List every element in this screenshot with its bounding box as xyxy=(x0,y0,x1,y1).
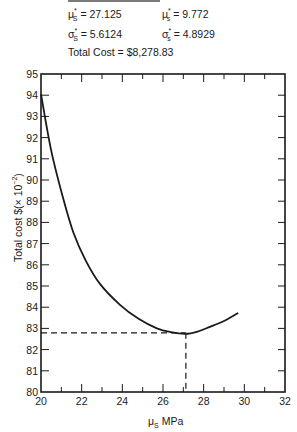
cost-curve xyxy=(41,94,238,334)
y-tick-label: 85 xyxy=(26,280,38,292)
y-tick-label: 92 xyxy=(26,132,38,144)
y-tick-label: 84 xyxy=(26,301,38,313)
y-tick-label: 90 xyxy=(26,174,38,186)
y-axis-label: Total cost $(× 10−2) xyxy=(11,173,24,262)
x-tick-label: 30 xyxy=(238,395,250,407)
y-tick-label: 95 xyxy=(26,68,38,80)
y-tick-label: 80 xyxy=(26,386,38,398)
y-tick-label: 81 xyxy=(26,365,38,377)
y-tick-label: 82 xyxy=(26,344,38,356)
x-tick-label: 24 xyxy=(116,395,128,407)
y-tick-label: 88 xyxy=(26,216,38,228)
y-tick-label: 91 xyxy=(26,153,38,165)
plot-frame xyxy=(41,74,285,392)
x-tick-label: 32 xyxy=(279,395,291,407)
y-tick-label: 94 xyxy=(26,89,38,101)
x-tick-label: 26 xyxy=(157,395,169,407)
x-tick-label: 22 xyxy=(76,395,88,407)
x-tick-label: 28 xyxy=(198,395,210,407)
y-tick-label: 83 xyxy=(26,322,38,334)
cost-chart: 2022242628303280818283848586878889909192… xyxy=(0,0,297,432)
x-axis-label: μS MPa xyxy=(148,415,183,429)
y-tick-label: 87 xyxy=(26,238,38,250)
y-tick-label: 93 xyxy=(26,110,38,122)
y-tick-label: 86 xyxy=(26,259,38,271)
y-tick-label: 89 xyxy=(26,195,38,207)
